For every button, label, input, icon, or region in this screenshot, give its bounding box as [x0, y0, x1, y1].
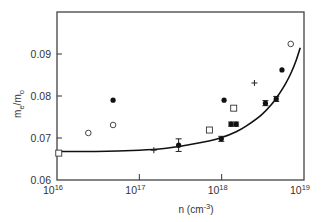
x-tick-label: 1017 — [125, 183, 145, 196]
data-point-plus — [251, 80, 257, 86]
data-point-filled-circle — [219, 136, 224, 141]
y-axis-label: me/mo — [12, 90, 26, 118]
x-tick-label: 1016 — [43, 183, 63, 196]
data-point-open-circle — [110, 122, 116, 128]
theory-curve — [57, 48, 300, 152]
data-point-open-square — [56, 150, 62, 156]
plot-frame — [57, 12, 304, 180]
data-point-open-square — [206, 127, 212, 133]
data-point-open-circle — [86, 130, 92, 136]
x-tick-label: 1019 — [290, 183, 310, 196]
data-point-filled-circle — [234, 122, 239, 127]
x-axis-label: n (cm-3) — [178, 202, 213, 215]
y-tick-label: 0.07 — [31, 132, 52, 144]
x-axis-ticks: 1016101710181019 — [43, 174, 310, 196]
y-tick-label: 0.09 — [31, 48, 52, 60]
data-point-open-circle — [288, 41, 294, 47]
data-point-filled-circle — [263, 101, 268, 106]
data-point-filled-circle — [176, 143, 181, 148]
x-tick-label: 1018 — [208, 183, 228, 196]
chart: 0.060.070.080.09 1016101710181019 me/mo … — [0, 0, 329, 222]
data-point-filled-circle — [110, 98, 115, 103]
data-point-plus — [151, 147, 157, 153]
y-tick-label: 0.08 — [31, 90, 52, 102]
data-point-filled-circle — [274, 96, 279, 101]
data-point-open-square — [231, 105, 237, 111]
data-point-filled-circle — [221, 98, 226, 103]
data-points — [56, 41, 294, 156]
data-point-filled-circle — [228, 122, 233, 127]
data-point-filled-circle — [279, 67, 284, 72]
